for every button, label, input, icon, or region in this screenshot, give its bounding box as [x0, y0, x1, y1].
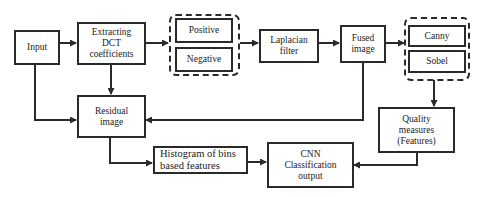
- node-negative: Negative: [175, 47, 233, 72]
- node-laplacian-filter: Laplacian filter: [259, 29, 319, 63]
- node-fused-image-label: Fused image: [345, 33, 381, 55]
- arrow-input-to-residual: [35, 64, 76, 120]
- node-quality-measures-label: Quality measures (Features): [389, 114, 445, 147]
- node-fused-image: Fused image: [340, 25, 386, 63]
- arrow-residual-to-histogram: [110, 137, 152, 163]
- arrow-quality-to-cnn: [354, 152, 417, 165]
- node-histogram-features-label: Histogram of bins based features: [160, 148, 245, 172]
- node-cnn-classification: CNN Classification output: [267, 142, 354, 188]
- node-sobel-label: Sobel: [426, 56, 448, 67]
- node-sobel: Sobel: [408, 50, 466, 73]
- node-extracting-dct: Extracting DCT coefficients: [77, 22, 146, 65]
- node-extracting-dct-label: Extracting DCT coefficients: [86, 27, 138, 60]
- node-canny: Canny: [408, 25, 466, 47]
- node-canny-label: Canny: [425, 31, 450, 42]
- node-positive: Positive: [175, 18, 233, 43]
- node-input: Input: [14, 30, 60, 65]
- node-laplacian-filter-label: Laplacian filter: [267, 35, 311, 57]
- node-input-label: Input: [27, 42, 47, 53]
- node-cnn-classification-label: CNN Classification output: [280, 149, 342, 182]
- node-residual-image-label: Residual image: [89, 106, 135, 128]
- flow-diagram: Input Extracting DCT coefficients Positi…: [0, 0, 484, 197]
- node-quality-measures: Quality measures (Features): [378, 107, 455, 153]
- node-residual-image: Residual image: [77, 95, 146, 138]
- node-histogram-features: Histogram of bins based features: [153, 146, 248, 174]
- node-positive-label: Positive: [189, 25, 220, 36]
- node-negative-label: Negative: [187, 54, 221, 65]
